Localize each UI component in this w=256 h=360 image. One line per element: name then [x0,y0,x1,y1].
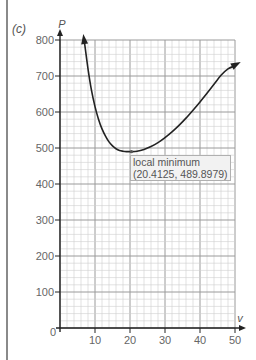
annotation-coords: (20.4125, 489.8979) [133,168,228,180]
x-tick-label: 20 [124,334,136,346]
y-tick-label: 300 [36,214,54,226]
x-tick-label: 50 [229,334,241,346]
y-tick-label: 400 [36,178,54,190]
local-minimum-annotation: local minimum (20.4125, 489.8979) [130,155,231,181]
local-minimum-marker [130,150,133,153]
y-tick-label: 700 [36,70,54,82]
y-tick-label: 600 [36,106,54,118]
origin-label: 0 [50,326,56,338]
y-tick-label: 500 [36,142,54,154]
curve-line [84,40,235,152]
curve-arrows [81,34,241,70]
x-tick-label: 10 [89,334,101,346]
y-tick-label: 200 [36,250,54,262]
x-tick-label: 40 [194,334,206,346]
grid [60,40,235,328]
x-axis-label: v [237,312,244,324]
x-tick-label: 30 [159,334,171,346]
y-tick-label: 800 [36,34,54,46]
y-tick-label: 100 [36,286,54,298]
y-axis-label: P [58,18,66,30]
annotation-title: local minimum [133,156,228,168]
